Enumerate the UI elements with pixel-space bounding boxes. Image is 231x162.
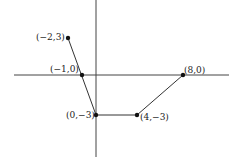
label-point-4-neg3: (4,−3)	[140, 113, 169, 122]
point-neg1-0	[80, 73, 84, 77]
graph-canvas	[0, 0, 231, 162]
point-4-neg3	[135, 113, 139, 117]
label-point-8-0: (8,0)	[184, 66, 205, 75]
label-point-neg2-3: (−2,3)	[36, 33, 65, 42]
label-point-0-neg3: (0,−3)	[66, 111, 95, 120]
point-neg2-3	[66, 36, 70, 40]
graph-line	[68, 38, 183, 115]
label-point-neg1-0: (−1,0)	[50, 65, 79, 74]
